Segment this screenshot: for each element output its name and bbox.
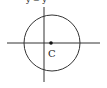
top-caption-fragment: y = y (25, 0, 47, 4)
center-label: C (48, 48, 56, 59)
center-point (49, 41, 53, 45)
circle-diagram: y = y C (0, 0, 107, 88)
